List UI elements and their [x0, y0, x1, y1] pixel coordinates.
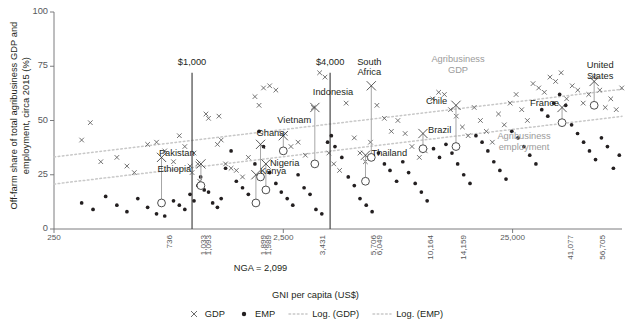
gdp-marker	[553, 79, 558, 84]
x-tick-label: 10,164	[426, 235, 435, 260]
emp-marker	[370, 210, 374, 214]
reference-line-label-1: $1,000	[178, 57, 206, 68]
legend-dotted-line-icon	[372, 309, 392, 319]
emp-marker	[146, 205, 150, 209]
emp-marker	[358, 197, 362, 201]
gdp-marker	[519, 107, 524, 112]
country-label-chile: Chile	[426, 96, 447, 107]
country-emp-marker	[197, 182, 205, 190]
gdp-marker	[323, 75, 328, 80]
emp-marker	[91, 208, 95, 212]
country-label-ghana: Ghana	[257, 128, 285, 139]
emp-marker	[207, 190, 211, 194]
gdp-marker	[217, 114, 222, 119]
emp-marker	[504, 177, 508, 181]
agribusiness-employment-trend-label: Agribusinessemployment	[497, 131, 550, 152]
emp-marker	[432, 147, 436, 151]
y-tick-label: 100	[22, 6, 48, 16]
country-emp-marker	[252, 199, 260, 207]
emp-marker	[234, 179, 238, 183]
emp-marker	[383, 162, 387, 166]
x-tick-label: 2,500	[273, 233, 293, 242]
emp-marker	[546, 114, 550, 118]
emp-marker	[492, 160, 496, 164]
gdp-marker	[257, 103, 262, 108]
gdp-marker	[219, 138, 224, 143]
country-label-brazil: Brazil	[428, 125, 451, 136]
gdp-marker	[403, 131, 408, 136]
country-emp-marker	[558, 119, 566, 127]
gdp-marker	[525, 118, 530, 123]
gdp-marker	[389, 129, 394, 134]
emp-marker	[528, 153, 532, 157]
emp-marker	[468, 182, 472, 186]
emp-marker	[438, 156, 442, 160]
chart-legend: GDPEMPLog. (GDP)Log. (EMP)	[0, 309, 631, 319]
emp-marker	[395, 179, 399, 183]
legend-item-log-emp: Log. (EMP)	[372, 309, 443, 319]
emp-marker	[606, 145, 610, 149]
country-emp-marker	[311, 160, 319, 168]
emp-marker	[346, 175, 350, 179]
emp-marker	[388, 169, 392, 173]
emp-marker	[425, 199, 429, 203]
emp-marker	[333, 145, 337, 149]
x-tick-label: 1,989	[264, 235, 273, 255]
gdp-marker	[115, 155, 120, 160]
country-emp-marker	[279, 147, 287, 155]
country-label-ethiopia: Ethiopia	[158, 164, 192, 175]
gdp-marker	[206, 116, 211, 121]
emp-marker	[588, 149, 592, 153]
emp-marker	[136, 197, 140, 201]
gdp-marker	[234, 168, 239, 173]
gdp-marker	[478, 118, 483, 123]
emp-marker	[253, 162, 257, 166]
legend-item-gdp: GDP	[188, 309, 225, 319]
gdp-marker	[382, 116, 387, 121]
gdp-marker	[417, 155, 422, 160]
scatter-plot-svg	[54, 12, 622, 229]
emp-marker	[279, 190, 283, 194]
emp-marker	[183, 208, 187, 212]
x-tick-label: 14,159	[459, 235, 468, 260]
gdp-marker	[154, 140, 159, 145]
emp-marker	[474, 134, 478, 138]
emp-marker	[274, 182, 278, 186]
gdp-marker	[261, 86, 266, 91]
emp-marker	[296, 173, 300, 177]
gdp-marker	[608, 97, 613, 102]
x-tick-label: 736	[165, 235, 174, 249]
x-axis-title: GNI per capita (US$)	[0, 290, 631, 300]
country-label-united-states: UnitedStates	[587, 60, 614, 81]
x-tick-label: 250	[47, 233, 61, 242]
emp-marker	[291, 203, 295, 207]
emp-marker	[498, 169, 502, 173]
country-emp-marker	[590, 101, 598, 109]
emp-marker	[617, 153, 621, 157]
gdp-marker	[436, 90, 441, 95]
country-label-indonesia: Indonesia	[313, 87, 353, 98]
gdp-marker	[296, 140, 301, 145]
emp-marker	[229, 149, 233, 153]
gdp-marker	[496, 112, 501, 117]
emp-marker	[241, 186, 245, 190]
gdp-marker	[274, 88, 279, 93]
emp-marker	[326, 140, 330, 144]
country-emp-marker	[419, 145, 427, 153]
y-tick-label: 25	[22, 169, 48, 179]
x-tick-label: 25,000	[500, 233, 525, 242]
emp-marker	[462, 173, 466, 177]
legend-dot-icon	[238, 309, 251, 319]
legend-label: GDP	[205, 309, 225, 319]
legend-label: Log. (EMP)	[396, 309, 443, 319]
gdp-marker	[99, 159, 104, 164]
legend-item-log-gdp: Log. (GDP)	[288, 309, 359, 319]
emp-marker	[80, 201, 84, 205]
gdp-marker	[352, 136, 357, 141]
emp-marker	[285, 197, 289, 201]
x-tick-label: 6,049	[375, 235, 384, 255]
emp-marker	[172, 199, 176, 203]
emp-marker	[329, 134, 333, 138]
gdp-marker	[344, 101, 349, 106]
x-tick-label: 56,705	[598, 235, 607, 260]
